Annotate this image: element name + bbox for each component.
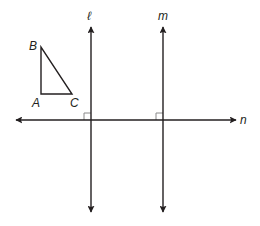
vertex-label-a: A bbox=[31, 96, 40, 110]
line-label-n: n bbox=[240, 113, 247, 127]
diagram-canvas: B A C n ℓ m bbox=[0, 0, 260, 226]
vertex-label-b: B bbox=[29, 39, 37, 53]
line-label-m: m bbox=[158, 9, 168, 23]
right-angle-mark-m-n bbox=[156, 113, 163, 120]
triangle-abc bbox=[41, 47, 72, 94]
line-label-l: ℓ bbox=[87, 9, 92, 23]
right-angle-mark-l-n bbox=[84, 113, 91, 120]
vertex-label-c: C bbox=[70, 96, 79, 110]
